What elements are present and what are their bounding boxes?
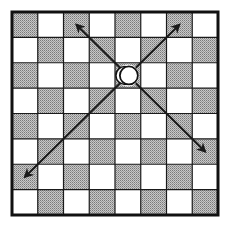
light-square — [12, 190, 38, 215]
dark-square — [38, 88, 64, 113]
chessboard — [0, 0, 233, 227]
dark-square — [64, 63, 90, 88]
light-square — [64, 37, 90, 62]
dark-square — [141, 139, 167, 164]
dark-square — [38, 37, 64, 62]
light-square — [141, 114, 167, 139]
dark-square — [115, 114, 141, 139]
dark-square — [12, 63, 38, 88]
dark-square — [115, 164, 141, 189]
light-square — [115, 139, 141, 164]
light-square — [64, 88, 90, 113]
dark-square — [12, 114, 38, 139]
light-square — [38, 12, 64, 37]
light-square — [192, 63, 218, 88]
light-square — [192, 12, 218, 37]
dark-square — [89, 190, 115, 215]
light-square — [38, 63, 64, 88]
dark-square — [167, 63, 193, 88]
light-square — [12, 139, 38, 164]
light-square — [115, 190, 141, 215]
light-square — [89, 164, 115, 189]
dark-square — [167, 164, 193, 189]
dark-square — [38, 190, 64, 215]
light-square — [115, 88, 141, 113]
light-square — [141, 63, 167, 88]
light-square — [89, 12, 115, 37]
light-square — [192, 114, 218, 139]
light-square — [12, 88, 38, 113]
light-square — [38, 114, 64, 139]
circle-piece-icon — [120, 66, 138, 84]
light-square — [141, 164, 167, 189]
dark-square — [192, 190, 218, 215]
light-square — [167, 190, 193, 215]
light-square — [89, 63, 115, 88]
dark-square — [141, 190, 167, 215]
light-square — [64, 139, 90, 164]
light-square — [167, 37, 193, 62]
dark-square — [192, 37, 218, 62]
light-square — [141, 12, 167, 37]
light-square — [167, 139, 193, 164]
light-square — [89, 114, 115, 139]
dark-square — [64, 164, 90, 189]
dark-square — [12, 12, 38, 37]
dark-square — [115, 12, 141, 37]
light-square — [38, 164, 64, 189]
light-square — [12, 37, 38, 62]
dark-square — [192, 88, 218, 113]
light-square — [167, 88, 193, 113]
chess-piece — [116, 64, 139, 86]
light-square — [64, 190, 90, 215]
light-square — [115, 37, 141, 62]
chessboard-diagram — [0, 0, 233, 227]
dark-square — [89, 139, 115, 164]
light-square — [192, 164, 218, 189]
